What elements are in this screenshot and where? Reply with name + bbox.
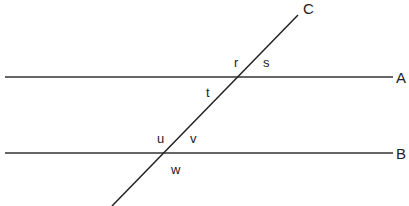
line-label-b: B bbox=[396, 146, 406, 161]
angle-label-s: s bbox=[263, 56, 270, 69]
angle-label-r: r bbox=[234, 56, 238, 69]
line-label-a: A bbox=[396, 70, 406, 85]
angle-label-v: v bbox=[190, 132, 197, 145]
angle-label-u: u bbox=[157, 132, 164, 145]
line-label-c: C bbox=[303, 1, 314, 16]
angle-label-w: w bbox=[171, 163, 180, 176]
diagram-canvas bbox=[0, 0, 409, 206]
angle-label-t: t bbox=[206, 86, 210, 99]
line-c-transversal bbox=[112, 15, 298, 206]
